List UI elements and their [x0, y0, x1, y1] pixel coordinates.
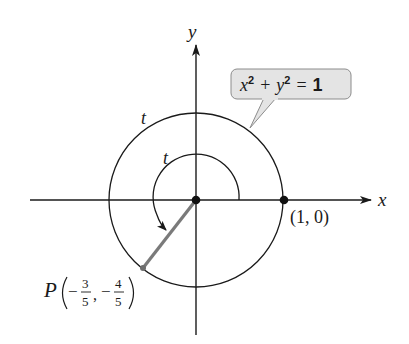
terminal-point-p — [140, 265, 146, 271]
outer-arc-label: t — [141, 108, 147, 128]
unit-circle-diagram: x y t t (1, 0) x2+y2=1 P − 3 5 , − 4 5 — [0, 0, 409, 344]
x-axis-label: x — [377, 189, 387, 210]
origin-point — [192, 196, 201, 205]
terminal-point-label: P − 3 5 , − 4 5 — [43, 276, 134, 309]
svg-text:−: − — [101, 282, 111, 301]
radius-segment — [143, 200, 196, 268]
callout-tail — [250, 98, 276, 128]
left-paren — [63, 277, 68, 309]
start-point — [280, 196, 289, 205]
right-paren — [129, 277, 134, 309]
start-point-label: (1, 0) — [290, 207, 329, 228]
svg-text:3: 3 — [82, 276, 89, 291]
svg-text:5: 5 — [82, 294, 89, 309]
svg-text:−: − — [68, 282, 78, 301]
y-axis-label: y — [186, 21, 197, 42]
point-name: P — [43, 278, 57, 302]
svg-text:4: 4 — [115, 276, 122, 291]
equation-callout: x2+y2=1 — [231, 69, 351, 128]
svg-text:5: 5 — [115, 294, 122, 309]
svg-text:,: , — [93, 286, 97, 303]
